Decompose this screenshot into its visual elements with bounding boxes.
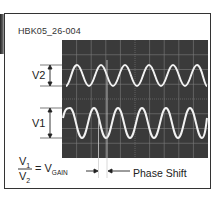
phase-shift-label: Phase Shift [133, 167, 187, 179]
v2-label: V2 [32, 69, 45, 81]
scope-grid [62, 40, 208, 158]
level-reference-lines [40, 65, 80, 138]
v1-label: V1 [32, 117, 45, 129]
equation-numerator: V1 [19, 155, 30, 169]
v2-trace [66, 65, 207, 86]
equation-result: = VGAIN [35, 162, 68, 176]
v1-amplitude-arrow [48, 108, 52, 138]
phase-shift-arrows [86, 169, 130, 173]
equation-denominator: V2 [19, 170, 30, 184]
v2-amplitude-arrow [48, 65, 52, 86]
oscilloscope-diagram [0, 0, 223, 200]
